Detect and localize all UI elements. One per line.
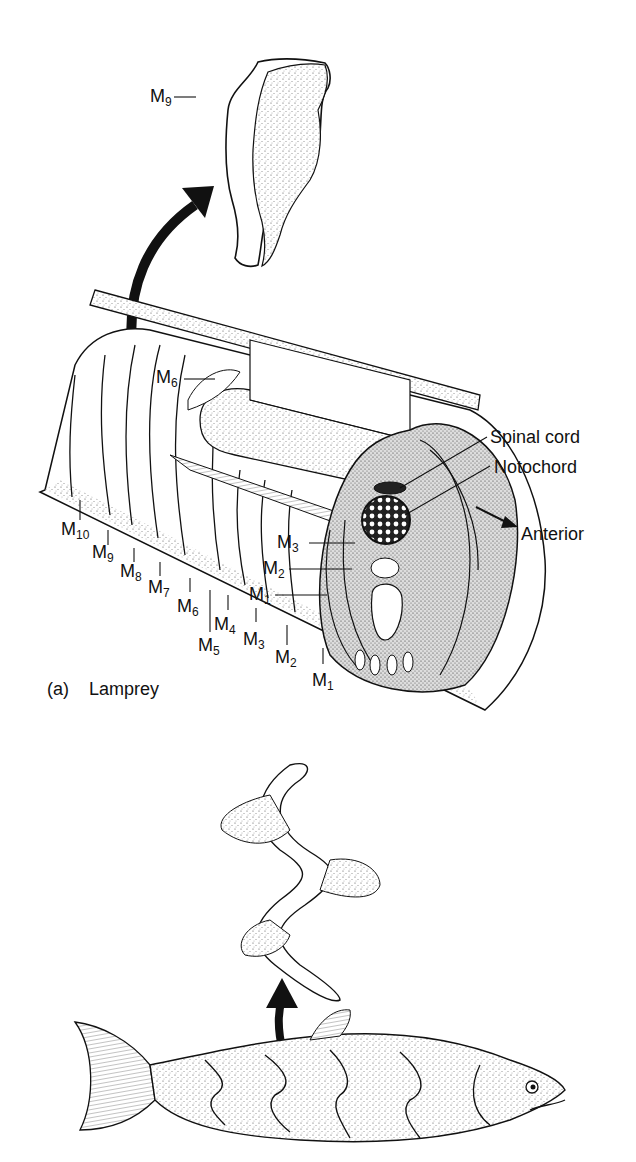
label-anterior: Anterior — [521, 525, 584, 543]
caption-name: Lamprey — [89, 679, 159, 699]
label-inner-m1: M1 — [249, 585, 271, 606]
label-inner-m2: M2 — [263, 559, 285, 580]
caption-panel-a: (a) Lamprey — [47, 679, 159, 700]
label-outer-m4: M4 — [214, 615, 236, 636]
fish-body — [75, 1010, 565, 1142]
label-inner-m3: M3 — [277, 533, 299, 554]
label-notochord: Notochord — [494, 458, 577, 476]
diagram-canvas — [0, 0, 636, 1162]
label-outer-m6: M6 — [177, 597, 199, 618]
label-isolated-m9: M9 — [150, 87, 172, 108]
label-outer-m3: M3 — [243, 630, 265, 651]
isolated-myomere-m9 — [226, 59, 330, 266]
lamprey-body-section — [40, 290, 545, 710]
label-outer-m1: M1 — [312, 671, 334, 692]
label-outer-m5: M5 — [198, 636, 220, 657]
isolated-myomere-fish — [221, 764, 380, 1001]
caption-letter: (a) — [47, 679, 69, 699]
label-upper-m6: M6 — [156, 368, 178, 389]
label-outer-m8: M8 — [120, 562, 142, 583]
label-outer-m9: M9 — [92, 543, 114, 564]
label-spinal-cord: Spinal cord — [490, 428, 580, 446]
label-outer-m10: M10 — [61, 520, 89, 541]
label-outer-m7: M7 — [148, 578, 170, 599]
label-outer-m2: M2 — [275, 648, 297, 669]
